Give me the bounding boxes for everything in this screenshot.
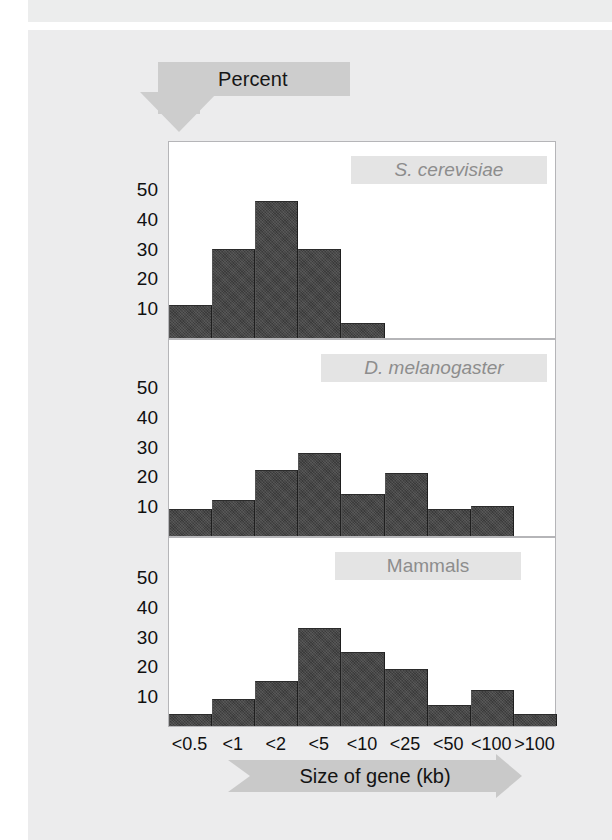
- bar: [341, 494, 384, 536]
- y-axis-tick-label: 30: [118, 240, 158, 259]
- y-axis-tick-label: 20: [118, 657, 158, 676]
- x-axis-title: Size of gene (kb): [250, 760, 500, 792]
- y-axis-tick-label: 40: [118, 408, 158, 427]
- panel-s-cerevisiae: S. cerevisiae: [168, 141, 556, 339]
- bar: [298, 453, 341, 536]
- y-axis-tick-label: 30: [118, 628, 158, 647]
- bar: [212, 500, 255, 536]
- panel-mammals: Mammals: [168, 537, 556, 727]
- y-axis-tick-label: 10: [118, 497, 158, 516]
- bar: [212, 249, 255, 338]
- bar: [298, 249, 341, 338]
- y-axis-title: Percent: [218, 64, 348, 94]
- y-axis-tick-label: 30: [118, 438, 158, 457]
- y-axis-tick-label: 50: [118, 568, 158, 587]
- bar: [341, 323, 384, 338]
- plot-area-1: D. melanogaster: [169, 340, 555, 536]
- bar: [428, 705, 471, 726]
- y-axis-tick-label: 40: [118, 598, 158, 617]
- panel-d-melanogaster: D. melanogaster: [168, 339, 556, 537]
- bar: [341, 652, 384, 727]
- bar: [169, 305, 212, 338]
- histogram-figure: Percent S. cerevisiae D. melanogaster Ma…: [0, 0, 612, 840]
- y-axis-tick-label: 50: [118, 378, 158, 397]
- x-axis-banner-notch: [228, 760, 250, 792]
- bar: [255, 470, 298, 536]
- y-axis-tick-label: 10: [118, 299, 158, 318]
- bar: [385, 669, 428, 726]
- y-axis-tick-label: 50: [118, 180, 158, 199]
- bar: [169, 714, 212, 726]
- y-axis-tick-label: 20: [118, 467, 158, 486]
- bar: [298, 628, 341, 726]
- series-label-1: D. melanogaster: [321, 354, 547, 382]
- y-axis-tick-label: 10: [118, 687, 158, 706]
- bar: [255, 201, 298, 338]
- percent-arrow-head-icon: [140, 92, 218, 132]
- bar: [471, 690, 514, 726]
- series-label-2: Mammals: [335, 552, 521, 580]
- bar: [255, 681, 298, 726]
- series-label-0: S. cerevisiae: [351, 156, 547, 184]
- bar: [212, 699, 255, 726]
- bar: [514, 714, 557, 726]
- y-axis-tick-label: 20: [118, 269, 158, 288]
- plot-area-2: Mammals: [169, 538, 555, 726]
- bar: [471, 506, 514, 536]
- bar: [169, 509, 212, 536]
- y-axis-tick-label: 40: [118, 210, 158, 229]
- plot-area-0: S. cerevisiae: [169, 142, 555, 338]
- bar: [428, 509, 471, 536]
- bar: [385, 473, 428, 536]
